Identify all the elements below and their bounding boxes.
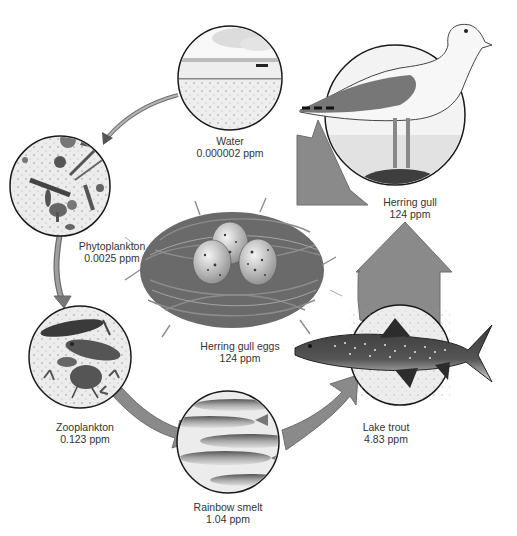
label-water: Water 0.000002 ppm (180, 135, 280, 159)
node-name: Herring gull (370, 196, 450, 208)
node-name: Water (180, 135, 280, 147)
label-zooplankton: Zooplankton 0.123 ppm (35, 421, 135, 445)
node-name: Herring gull eggs (180, 340, 300, 352)
food-chain-diagram: Water 0.000002 ppm Phytoplankton 0.0025 … (0, 0, 517, 536)
label-herring-gull-eggs: Herring gull eggs 124 ppm (180, 340, 300, 364)
node-value: 4.83 ppm (346, 433, 426, 445)
node-name: Rainbow smelt (178, 501, 278, 513)
node-value: 0.123 ppm (35, 433, 135, 445)
lake-trout-illustration (295, 305, 492, 405)
node-value: 0.000002 ppm (180, 147, 280, 159)
water-illustration (178, 26, 282, 132)
nest-with-eggs-illustration (125, 198, 342, 337)
label-phytoplankton: Phytoplankton 0.0025 ppm (62, 240, 162, 264)
node-name: Zooplankton (35, 421, 135, 433)
label-rainbow-smelt: Rainbow smelt 1.04 ppm (178, 501, 278, 525)
node-value: 124 ppm (370, 208, 450, 220)
node-value: 1.04 ppm (178, 513, 278, 525)
zooplankton-illustration (29, 306, 131, 408)
node-name: Phytoplankton (62, 240, 162, 252)
label-herring-gull: Herring gull 124 ppm (370, 196, 450, 220)
arrow-water-to-phytoplankton (102, 95, 178, 145)
phytoplankton-illustration (10, 130, 110, 236)
diagram-graphics (0, 0, 517, 536)
node-value: 124 ppm (180, 352, 300, 364)
label-lake-trout: Lake trout 4.83 ppm (346, 421, 426, 445)
node-value: 0.0025 ppm (62, 252, 162, 264)
node-name: Lake trout (346, 421, 426, 433)
